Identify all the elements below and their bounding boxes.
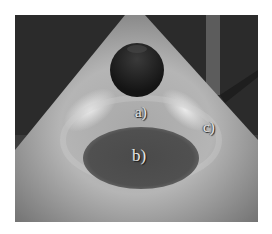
label-b: b) <box>132 147 146 164</box>
pillar <box>206 15 220 95</box>
sphere-highlight <box>127 45 147 53</box>
label-a: a) <box>135 105 147 120</box>
rendered-scene: a) c) b) <box>15 15 258 222</box>
label-c: c) <box>203 120 215 135</box>
